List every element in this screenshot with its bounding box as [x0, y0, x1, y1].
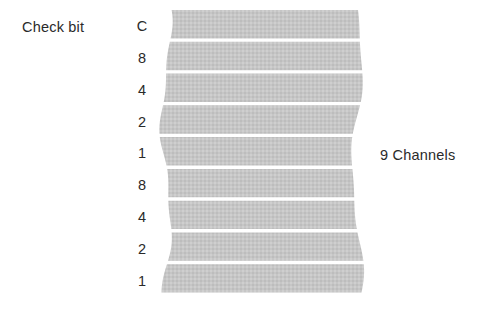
- track-label: 2: [130, 242, 154, 257]
- tape-band: [168, 201, 356, 229]
- tape-channel-diagram: Check bit C84218421 9 Channels: [0, 0, 488, 310]
- tape-band: [168, 232, 363, 260]
- track-label: 1: [130, 274, 154, 289]
- track-label: 2: [130, 115, 154, 130]
- track-label-column: C84218421: [130, 0, 154, 310]
- track-label: 4: [130, 83, 154, 98]
- tape-band: [159, 105, 360, 133]
- tape-band: [162, 264, 365, 292]
- tape-band: [167, 169, 354, 197]
- channels-label: 9 Channels: [380, 147, 455, 163]
- track-label: C: [130, 19, 154, 34]
- band-group: [159, 10, 364, 293]
- track-label: 8: [130, 178, 154, 193]
- track-label: 1: [130, 146, 154, 161]
- tape-band: [171, 10, 360, 38]
- track-label: 8: [130, 51, 154, 66]
- tape-band: [160, 137, 352, 165]
- tape-band: [164, 74, 363, 102]
- track-label: 4: [130, 210, 154, 225]
- tape-band: [166, 42, 362, 70]
